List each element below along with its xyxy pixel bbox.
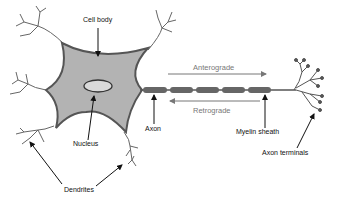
axon-terminals-label: Axon terminals [262,149,308,156]
anterograde-label: Anterograde [193,63,234,72]
neuron-diagram [0,0,347,206]
nucleus-shape [84,80,112,92]
myelin-sheath-label: Myelin sheath [236,128,279,135]
dendrites-label: Dendrites [64,186,94,193]
dendrites-pointer-left [30,142,62,184]
dendrites-pointer-right [96,165,122,186]
retrograde-label: Retrograde [193,106,231,115]
cell-body-label: Cell body [83,16,112,23]
axon-terminals [294,59,324,112]
nucleus-label: Nucleus [73,140,98,147]
myelin-segments [143,87,271,93]
axon-terminals-pointer [297,114,314,148]
axon-label: Axon [145,125,161,132]
